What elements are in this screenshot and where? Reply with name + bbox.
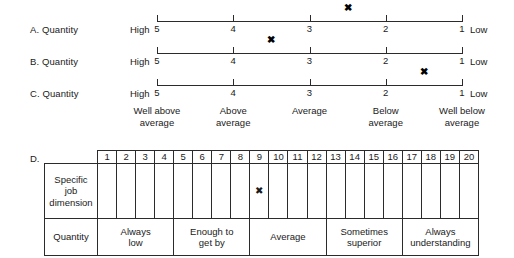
table-column-header: 18 [421,151,440,164]
dimension-cell[interactable] [231,164,250,219]
dimension-cell[interactable] [326,164,345,219]
scale-tick [310,47,311,54]
scale-tick-label: 2 [379,55,393,66]
table-column-header: 19 [440,151,459,164]
category-group-line1: Enough to [174,226,249,238]
dimension-cell[interactable] [136,164,155,219]
scale-descriptor-line2: average [343,117,429,129]
table-column-header: 15 [364,151,383,164]
category-group-cell: Enough toget by [174,219,250,256]
scale-anchor-high: High [130,24,150,35]
table-column-header: 2 [117,151,136,164]
scale-descriptor: Belowaverage [343,105,429,128]
scale-tick [462,47,463,54]
dimension-cell[interactable] [459,164,478,219]
dimension-cell-marked[interactable]: ✖ [250,164,269,219]
dimension-cell[interactable] [98,164,117,219]
scale-tick [233,79,234,86]
category-group-line2: get by [174,237,249,249]
scale-descriptor-line2: average [190,117,276,129]
scale-descriptor: Average [267,105,353,117]
scale-descriptor-line1: Average [267,105,353,117]
scale-tick [310,15,311,22]
table-column-header: 13 [326,151,345,164]
category-group-line2: low [98,237,173,249]
table-column-header: 16 [383,151,402,164]
scale-tick-label: 2 [379,87,393,98]
table-column-header: 11 [288,151,307,164]
scale-tick-label: 5 [150,55,164,66]
category-group-line1: Sometimes [327,226,402,238]
row-label-line: dimension [45,197,97,209]
dimension-cell[interactable] [117,164,136,219]
scale-descriptor-row: Well aboveaverageAboveaverageAverageBelo… [0,105,514,131]
category-group-cell: Alwayslow [98,219,174,256]
table-header-row: 1234567891011121314151617181920 [45,151,479,164]
row-label-dimension: Specificjobdimension [45,164,98,219]
scale-descriptor-line2: average [114,117,200,129]
table-column-header: 4 [155,151,174,164]
scale-tick-label: 5 [150,87,164,98]
scale-anchor-low: Low [470,24,487,35]
scale-descriptor: Well aboveaverage [114,105,200,128]
dimension-cell[interactable] [174,164,193,219]
scale-tick [157,79,158,86]
dimension-cell[interactable] [288,164,307,219]
scale-tick-label: 3 [303,87,317,98]
scale-tick [233,47,234,54]
scale-row-label: B. Quantity [30,56,78,67]
scale-descriptor: Aboveaverage [190,105,276,128]
category-group-line2: understanding [403,237,478,249]
table-row-dimension: Specificjobdimension✖ [45,164,479,219]
dimension-cell[interactable] [307,164,326,219]
scale-row-label: C. Quantity [30,88,79,99]
dimension-cell[interactable] [155,164,174,219]
category-group-cell: Alwaysunderstanding [402,219,478,256]
scale-tick-label: 1 [455,23,469,34]
scale-tick-label: 3 [303,55,317,66]
table-column-header: 8 [231,151,250,164]
table-column-header: 10 [269,151,288,164]
scale-tick [310,79,311,86]
scale-descriptor-line2: average [419,117,505,129]
rating-scale-row: C. QuantityHighLow54321✖ [0,75,514,107]
table-column-header: 12 [307,151,326,164]
table-column-header: 3 [136,151,155,164]
table-row-category: QuantityAlwayslowEnough toget byAverageS… [45,219,479,256]
scale-mark-x-icon: ✖ [341,3,355,13]
section-d-letter: D. [30,153,40,164]
scale-tick-label: 4 [226,87,240,98]
scale-descriptor: Well belowaverage [419,105,505,128]
table-column-header: 20 [459,151,478,164]
dimension-cell[interactable] [345,164,364,219]
table-column-header: 5 [174,151,193,164]
scale-tick-label: 2 [379,23,393,34]
dimension-cell[interactable] [364,164,383,219]
dimension-cell[interactable] [402,164,421,219]
scale-anchor-low: Low [470,88,487,99]
dimension-cell[interactable] [193,164,212,219]
category-group-line1: Average [250,231,325,243]
category-group-line1: Always [98,226,173,238]
dimension-cell[interactable] [421,164,440,219]
table-column-header: 14 [345,151,364,164]
scale-tick [386,47,387,54]
dimension-cell[interactable] [269,164,288,219]
scale-anchor-high: High [130,88,150,99]
scale-row-label: A. Quantity [30,24,78,35]
scale-tick [386,79,387,86]
table-column-header: 9 [250,151,269,164]
scale-tick [462,79,463,86]
scale-descriptor-line1: Well below [419,105,505,117]
table-column-header: 17 [402,151,421,164]
scale-tick-label: 1 [455,55,469,66]
scale-descriptor-line1: Well above [114,105,200,117]
dimension-cell[interactable] [212,164,231,219]
scale-tick [386,15,387,22]
category-group-cell: Average [250,219,326,256]
scale-anchor-high: High [130,56,150,67]
dimension-cell[interactable] [440,164,459,219]
dimension-cell[interactable] [383,164,402,219]
scale-descriptor-line1: Above [190,105,276,117]
table-corner-cell [45,151,98,164]
